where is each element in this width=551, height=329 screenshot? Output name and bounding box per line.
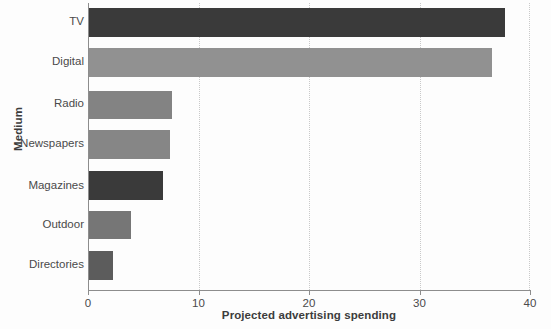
x-tick-label-40: 40 [510,297,550,309]
bar-magazines [88,171,163,200]
x-tick-label-10: 10 [179,297,219,309]
bar-newspapers [88,130,170,159]
y-tick-label-directories: Directories [0,258,84,270]
bar-chart: Medium TV Digital Radio Newspapers Magaz… [0,0,551,329]
gridline-30 [420,3,421,290]
plot-area [88,3,530,290]
bar-digital [88,48,492,77]
bar-directories [88,251,113,280]
y-tick-label-outdoor: Outdoor [0,218,84,230]
y-tick-label-newspapers: Newspapers [0,137,84,149]
x-tick-label-30: 30 [400,297,440,309]
y-tick-label-radio: Radio [0,97,84,109]
x-tick-label-0: 0 [68,297,108,309]
x-tick-40 [530,290,531,295]
gridline-10 [199,3,200,290]
x-tick-30 [420,290,421,295]
bar-outdoor [88,211,131,239]
y-tick-label-digital: Digital [0,55,84,67]
y-tick-label-magazines: Magazines [0,179,84,191]
x-axis-title: Projected advertising spending [88,309,530,321]
x-tick-10 [199,290,200,295]
y-tick-label-tv: TV [0,15,84,27]
gridline-20 [309,3,310,290]
y-axis-line [88,3,89,291]
gridline-40 [529,3,530,290]
x-tick-20 [309,290,310,295]
x-tick-label-20: 20 [289,297,329,309]
x-tick-0 [88,290,89,295]
bar-radio [88,91,172,119]
bar-tv [88,8,505,37]
